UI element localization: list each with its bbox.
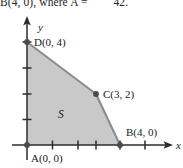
y-axis-label: y [38, 22, 43, 33]
plot-svg [0, 8, 183, 168]
vertex-dot-c [93, 91, 99, 97]
point-label-d: D(0, 4) [34, 37, 66, 48]
problem-text-segment-b: 42. [114, 0, 129, 8]
vertex-dot-d [24, 39, 30, 45]
figure-screenshot: B(4, 0), where A =42. [0, 0, 183, 168]
vertex-dot-a [24, 142, 30, 148]
point-label-c: C(3, 2) [103, 89, 134, 100]
vertex-dot-b [117, 142, 123, 148]
region-label-s: S [58, 109, 64, 121]
point-label-b: B(4, 0) [126, 127, 157, 138]
x-axis-label: x [176, 140, 181, 151]
point-label-a: A(0, 0) [31, 153, 63, 164]
problem-text-segment-a: B(4, 0), where A = [0, 0, 88, 8]
coordinate-plot: y x S D(0, 4) C(3, 2) B(4, 0) A(0, 0) [0, 8, 183, 168]
